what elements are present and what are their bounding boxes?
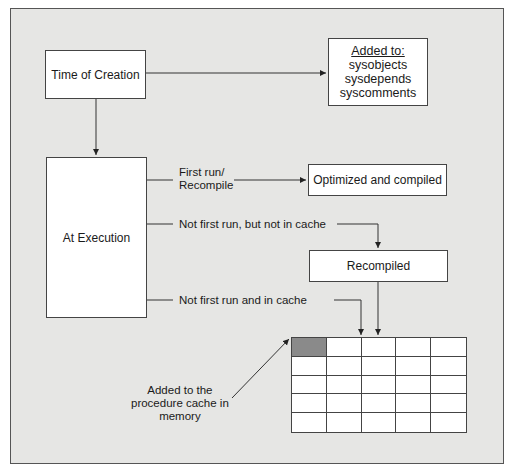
cache-cell (431, 376, 466, 395)
cache-cell (431, 357, 466, 376)
procedure-cache-note-line2: procedure cache in (131, 397, 229, 410)
cache-cell (431, 413, 466, 432)
cache-cell (396, 338, 431, 357)
recompiled-box: Recompiled (309, 250, 448, 282)
optimized-compiled-label: Optimized and compiled (313, 173, 442, 187)
at-execution-label: At Execution (63, 231, 130, 245)
cache-cell (362, 413, 397, 432)
edge-label-first-run: First run/ Recompile (179, 166, 233, 192)
cache-cell (362, 394, 397, 413)
cache-cell (292, 413, 327, 432)
added-to-item-sysdepends: sysdepends (340, 72, 416, 86)
cache-cell (292, 376, 327, 395)
edge-label-first-run-line2: Recompile (179, 179, 233, 192)
procedure-cache-grid (291, 337, 467, 433)
edge-label-not-first-in-cache: Not first run and in cache (179, 294, 307, 307)
time-of-creation-label: Time of Creation (51, 68, 139, 82)
cache-cell (396, 376, 431, 395)
cache-cell (327, 357, 362, 376)
recompiled-label: Recompiled (347, 259, 410, 273)
edge-label-not-first-not-cache: Not first run, but not in cache (179, 218, 326, 231)
added-to-heading: Added to: (340, 44, 416, 58)
procedure-cache-note: Added to the procedure cache in memory (131, 384, 229, 423)
cache-cell (396, 357, 431, 376)
cache-cell (362, 357, 397, 376)
optimized-compiled-box: Optimized and compiled (308, 164, 447, 196)
cache-cell (327, 338, 362, 357)
added-to-box: Added to: sysobjects sysdepends syscomme… (328, 38, 428, 106)
at-execution-box: At Execution (46, 157, 147, 318)
procedure-cache-note-line1: Added to the (147, 384, 212, 397)
cache-cell (292, 357, 327, 376)
cache-cell (431, 338, 466, 357)
cache-cell (396, 413, 431, 432)
cache-cell (362, 376, 397, 395)
cache-cell (327, 413, 362, 432)
cache-cell (362, 338, 397, 357)
edge-label-first-run-line1: First run/ (179, 166, 233, 179)
cache-cell (431, 394, 466, 413)
cache-cell (327, 394, 362, 413)
cache-cell (292, 394, 327, 413)
time-of-creation-box: Time of Creation (45, 50, 146, 99)
cache-cell-shaded (292, 338, 327, 357)
cache-cell (327, 376, 362, 395)
added-to-item-syscomments: syscomments (340, 86, 416, 100)
procedure-cache-note-line3: memory (159, 410, 201, 423)
added-to-item-sysobjects: sysobjects (340, 58, 416, 72)
cache-cell (396, 394, 431, 413)
